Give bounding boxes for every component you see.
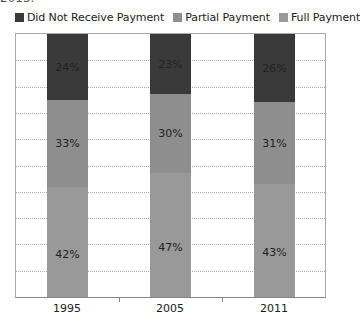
bar-segment-did-not-receive-payment: 24%	[47, 34, 88, 100]
data-label: 23%	[158, 58, 182, 71]
bar-2011: 43%31%26%	[254, 34, 295, 297]
cut-off-caption: 2013.	[0, 0, 34, 5]
bar-1995: 42%33%24%	[47, 34, 88, 297]
bar-segment-did-not-receive-payment: 23%	[150, 34, 191, 94]
x-axis-label-1995: 1995	[37, 302, 97, 315]
data-label: 30%	[158, 127, 182, 140]
bar-2005: 47%30%23%	[150, 34, 191, 297]
legend-label: Full Payment	[291, 11, 360, 24]
legend-item-full: Full Payment	[279, 11, 360, 24]
bar-segment-partial-payment: 31%	[254, 102, 295, 184]
bar-segment-full-payment: 43%	[254, 184, 295, 297]
legend-item-partial: Partial Payment	[173, 11, 270, 24]
data-label: 43%	[262, 246, 286, 259]
data-label: 42%	[55, 248, 79, 261]
legend-item-did-not-receive: Did Not Receive Payment	[15, 11, 164, 24]
data-label: 31%	[262, 137, 286, 150]
x-axis-label-2011: 2011	[244, 302, 304, 315]
data-label: 26%	[262, 62, 286, 75]
data-label: 47%	[158, 241, 182, 254]
x-axis-tick	[119, 298, 120, 302]
bar-segment-full-payment: 47%	[150, 173, 191, 297]
chart-legend: Did Not Receive Payment Partial Payment …	[15, 10, 360, 24]
plot-area: 42%33%24%47%30%23%43%31%26%	[15, 33, 326, 298]
legend-swatch-full	[279, 13, 288, 22]
legend-label: Partial Payment	[185, 11, 270, 24]
data-label: 24%	[55, 61, 79, 74]
x-axis-label-2005: 2005	[140, 302, 200, 315]
legend-swatch-partial	[173, 13, 182, 22]
legend-swatch-did-not-receive	[15, 13, 24, 22]
bar-segment-partial-payment: 33%	[47, 100, 88, 187]
data-label: 33%	[55, 137, 79, 150]
legend-label: Did Not Receive Payment	[27, 11, 164, 24]
x-axis-tick	[222, 298, 223, 302]
bar-segment-did-not-receive-payment: 26%	[254, 34, 295, 102]
bar-segment-partial-payment: 30%	[150, 94, 191, 173]
bar-segment-full-payment: 42%	[47, 187, 88, 297]
